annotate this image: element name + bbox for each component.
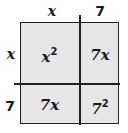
cell-7x-bottom: 7x [20,98,79,113]
left-label-x: x [1,47,21,61]
cell-7-squared: 72 [80,96,120,117]
cell-7-squared-base: 7 [91,100,101,118]
cell-x-squared: x2 [20,44,79,65]
top-label-x: x [42,4,62,18]
cell-7x-top-text: 7x [90,46,109,64]
horizontal-divider [14,83,120,85]
top-label-7: 7 [90,4,110,18]
cell-x-squared-exponent: 2 [50,46,57,57]
cell-7x-top: 7x [80,48,120,63]
cell-7x-bottom-text: 7x [40,96,59,114]
cell-7-squared-exponent: 2 [102,98,109,109]
left-label-7: 7 [0,99,20,113]
